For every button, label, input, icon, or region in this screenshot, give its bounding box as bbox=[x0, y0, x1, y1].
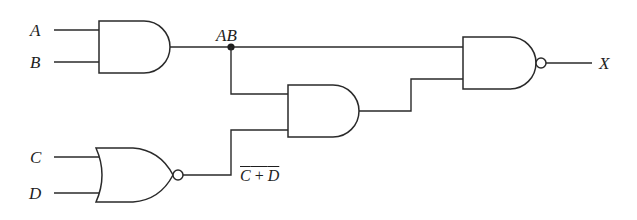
label-output-x: X bbox=[599, 55, 609, 72]
nor-inversion-bubble bbox=[173, 170, 183, 180]
circuit-svg bbox=[0, 0, 637, 220]
and-gate-ab bbox=[99, 21, 170, 73]
wire-ab-to-and2 bbox=[231, 47, 288, 94]
nand-gate bbox=[463, 37, 536, 89]
label-input-d: D bbox=[29, 185, 41, 202]
wire-and2-to-nand bbox=[359, 79, 463, 111]
label-nor-output: C + D bbox=[240, 168, 279, 184]
label-input-b: B bbox=[30, 54, 40, 71]
nand-inversion-bubble bbox=[536, 58, 546, 68]
label-nor-plus: + bbox=[251, 167, 268, 184]
label-input-c: C bbox=[30, 149, 41, 166]
label-ab: AB bbox=[216, 27, 237, 44]
and-gate-2 bbox=[288, 85, 359, 137]
nor-gate-cd bbox=[96, 148, 173, 202]
label-nor-c: C bbox=[240, 167, 251, 184]
label-input-a: A bbox=[30, 22, 40, 39]
label-nor-d: D bbox=[268, 167, 280, 184]
logic-circuit-diagram: A B AB C D C + D X bbox=[0, 0, 637, 220]
